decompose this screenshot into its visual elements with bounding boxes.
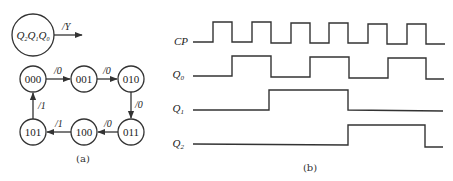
svg-text:010: 010 [123, 73, 140, 85]
svg-text:/1: /1 [37, 100, 46, 111]
signal-label-cp: CP [174, 35, 188, 47]
legend: Q2Q1Q0 /Y [12, 14, 82, 56]
transition-101-000: /1 [33, 93, 46, 119]
svg-text:011: 011 [123, 126, 139, 138]
waveform-q2 [193, 125, 443, 147]
transition-000-001: /0 [46, 65, 70, 79]
transition-011-100: /0 [98, 118, 118, 132]
state-000: 000 [20, 66, 46, 92]
svg-text:001: 001 [76, 73, 93, 85]
state-011: 011 [118, 119, 144, 145]
legend-output-label: /Y [61, 21, 72, 32]
svg-text:/1: /1 [54, 118, 63, 129]
state-100: 100 [71, 119, 97, 145]
state-001: 001 [71, 66, 97, 92]
svg-text:/0: /0 [134, 99, 143, 110]
svg-text:/0: /0 [102, 65, 111, 76]
svg-text:000: 000 [25, 73, 42, 85]
timing-diagram: CP Q0 Q1 Q2 (b) [173, 22, 445, 173]
signal-label-q1: Q1 [173, 102, 184, 116]
caption-a: (a) [76, 153, 90, 164]
svg-text:101: 101 [25, 126, 42, 138]
waveform-q1 [193, 90, 443, 111]
transition-100-101: /1 [47, 118, 71, 132]
svg-text:100: 100 [76, 126, 93, 138]
transition-001-010: /0 [97, 65, 117, 79]
svg-text:/0: /0 [103, 118, 112, 129]
svg-text:/0: /0 [53, 65, 62, 76]
state-010: 010 [118, 66, 144, 92]
signal-label-q0: Q0 [173, 68, 185, 82]
diagram-canvas: Q2Q1Q0 /Y 000 001 010 011 100 101 [0, 0, 453, 181]
waveform-cp [193, 22, 445, 44]
signal-label-q2: Q2 [173, 137, 185, 151]
state-101: 101 [20, 119, 46, 145]
transition-010-011: /0 [131, 92, 143, 118]
state-diagram: Q2Q1Q0 /Y 000 001 010 011 100 101 [12, 14, 144, 164]
waveform-q0 [193, 56, 444, 79]
caption-b: (b) [303, 162, 317, 173]
legend-state-label: Q2Q1Q0 [17, 29, 50, 42]
